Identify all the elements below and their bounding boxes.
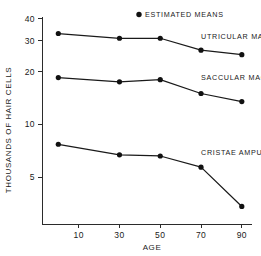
y-tick-label: 5 (30, 172, 35, 182)
data-point (239, 52, 244, 57)
x-tick-label: 90 (237, 230, 247, 240)
legend: ESTIMATED MEANS (136, 10, 223, 19)
data-point (117, 152, 122, 157)
data-series (56, 31, 245, 209)
x-axis-title: AGE (143, 243, 162, 252)
y-tick-label: 40 (25, 14, 35, 24)
data-point (198, 48, 203, 53)
x-tick-label: 50 (155, 230, 165, 240)
x-tick-label: 70 (196, 230, 206, 240)
data-point (56, 75, 61, 80)
data-point (198, 165, 203, 170)
series-label-1: SACCULAR MACULA (201, 73, 261, 82)
data-point (198, 91, 203, 96)
data-point (56, 142, 61, 147)
series-label-0: UTRICULAR MACULA (201, 32, 261, 41)
data-point (117, 79, 122, 84)
y-tick-label: 10 (25, 119, 35, 129)
data-point (56, 31, 61, 36)
data-point (158, 36, 163, 41)
y-axis-title: THOUSANDS OF HAIR CELLS (4, 67, 13, 193)
x-tick-label: 30 (114, 230, 124, 240)
x-tick-label: 10 (74, 230, 84, 240)
series-labels: UTRICULAR MACULASACCULAR MACULACRISTAE A… (201, 32, 261, 157)
axis-ticks (38, 19, 242, 228)
legend-label: ESTIMATED MEANS (145, 10, 224, 19)
data-point (117, 36, 122, 41)
y-tick-label: 20 (25, 67, 35, 77)
data-point (239, 204, 244, 209)
axis-spine (42, 17, 252, 224)
axes (42, 17, 252, 224)
chart-figure: 5102030401030507090 UTRICULAR MACULASACC… (0, 0, 261, 256)
data-point (239, 99, 244, 104)
y-tick-label: 30 (25, 36, 35, 46)
data-point (158, 153, 163, 158)
line-chart: 5102030401030507090 UTRICULAR MACULASACC… (0, 0, 261, 256)
series-label-2: CRISTAE AMPULLA (201, 148, 261, 157)
legend-marker (136, 12, 141, 17)
axis-tick-labels: 5102030401030507090 (25, 14, 247, 240)
data-point (158, 77, 163, 82)
